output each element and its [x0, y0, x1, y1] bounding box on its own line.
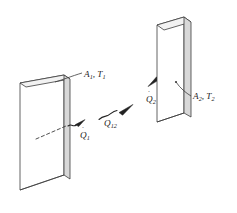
- label-q2-symbol-group: ˙Q: [146, 95, 153, 104]
- label-q2-subscript: 2: [153, 98, 156, 105]
- label-q12-subscript: 12: [111, 122, 117, 129]
- plate-2-front-face: [157, 17, 184, 122]
- label-q1-symbol-group: ˙Q: [80, 131, 87, 140]
- label-q12-dot: ˙: [106, 115, 108, 122]
- plate-1-side-face: [64, 75, 70, 179]
- label-q1-subscript: 1: [87, 134, 90, 141]
- label-t1-subscript: 1: [102, 73, 105, 80]
- label-a2-t2: A2, T2: [193, 92, 215, 102]
- radiation-heat-transfer-figure: A1, T1 A2, T2 ˙Q1 ˙Q12 ˙Q2: [0, 0, 237, 213]
- label-a1-t1: A1, T1: [84, 70, 106, 80]
- plate-1-front-face: [20, 75, 64, 190]
- label-t2-subscript: 2: [211, 95, 214, 102]
- label-q1: ˙Q1: [80, 131, 90, 141]
- figure-canvas: [0, 0, 237, 213]
- plate-2-side-face: [184, 17, 191, 117]
- plate-1: [20, 75, 70, 190]
- label-q1-dot: ˙: [82, 127, 84, 134]
- plate-2: [157, 17, 191, 122]
- label-q12: ˙Q12: [104, 119, 117, 129]
- label-q2: ˙Q2: [146, 95, 156, 105]
- label-q2-dot: ˙: [148, 91, 150, 98]
- label-q12-symbol-group: ˙Q: [104, 119, 111, 128]
